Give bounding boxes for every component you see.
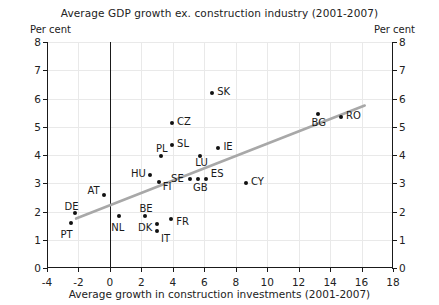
data-point-label-es: ES	[211, 169, 224, 179]
x-tick-mark	[173, 268, 174, 272]
y-tick-mark	[43, 240, 47, 241]
data-point-label-fi: FI	[163, 182, 172, 192]
y-tick-mark	[393, 212, 397, 213]
data-point-label-nl: NL	[111, 223, 124, 233]
data-point-fi	[157, 180, 161, 184]
data-point-hu	[148, 173, 152, 177]
x-tick-label: 12	[292, 276, 305, 288]
y-tick-mark	[43, 155, 47, 156]
x-tick-mark	[299, 268, 300, 272]
y-tick-label: 1	[29, 234, 41, 246]
data-point-label-ro: RO	[346, 111, 361, 121]
y-tick-mark	[393, 183, 397, 184]
y-tick-label: 0	[399, 262, 411, 274]
data-point-label-gb: GB	[193, 183, 208, 193]
y-tick-label: 8	[29, 36, 41, 48]
y-tick-label: 0	[29, 262, 41, 274]
y-tick-label: 4	[29, 149, 41, 161]
x-tick-mark	[330, 268, 331, 272]
chart-title: Average GDP growth ex. construction indu…	[0, 7, 439, 19]
x-tick-label: 10	[260, 276, 273, 288]
y-tick-label: 7	[399, 64, 411, 76]
data-point-label-de: DE	[65, 202, 79, 212]
y-tick-mark	[43, 183, 47, 184]
data-point-label-sl: SL	[177, 139, 189, 149]
data-point-label-sk: SK	[217, 87, 230, 97]
y-tick-mark	[393, 99, 397, 100]
data-point-label-it: IT	[161, 234, 170, 244]
y-axis-unit-right: Per cent	[374, 24, 415, 35]
y-tick-mark	[393, 155, 397, 156]
data-point-be	[143, 214, 147, 218]
y-tick-label: 4	[399, 149, 411, 161]
x-tick-label: -2	[73, 276, 83, 288]
x-tick-label: 16	[355, 276, 368, 288]
plot-area: 001122334455667788-4-2024681012141618 PT…	[47, 42, 393, 268]
data-point-label-lu: LU	[195, 158, 207, 168]
y-tick-mark	[43, 212, 47, 213]
trendline	[47, 42, 393, 268]
data-point-gb	[196, 177, 200, 181]
y-tick-label: 6	[399, 93, 411, 105]
y-tick-label: 8	[399, 36, 411, 48]
data-point-label-dk: DK	[138, 223, 152, 233]
y-tick-label: 6	[29, 93, 41, 105]
scatter-chart: Average GDP growth ex. construction indu…	[0, 0, 439, 305]
x-tick-label: 18	[386, 276, 399, 288]
data-point-label-pt: PT	[61, 230, 73, 240]
x-tick-label: 0	[107, 276, 114, 288]
data-point-label-se: SE	[171, 174, 184, 184]
y-tick-mark	[393, 240, 397, 241]
y-tick-label: 2	[29, 206, 41, 218]
y-tick-mark	[43, 42, 47, 43]
y-tick-mark	[393, 127, 397, 128]
y-tick-label: 7	[29, 64, 41, 76]
y-tick-label: 1	[399, 234, 411, 246]
y-tick-label: 3	[29, 177, 41, 189]
x-tick-mark	[204, 268, 205, 272]
x-tick-label: 14	[323, 276, 336, 288]
x-tick-mark	[110, 268, 111, 272]
y-tick-mark	[43, 70, 47, 71]
y-tick-mark	[43, 99, 47, 100]
data-point-label-ie: IE	[223, 142, 232, 152]
data-point-es	[204, 177, 208, 181]
data-point-label-pl: PL	[156, 144, 168, 154]
x-tick-label: 6	[201, 276, 208, 288]
y-tick-label: 2	[399, 206, 411, 218]
data-point-cz	[170, 121, 174, 125]
x-tick-label: 4	[169, 276, 176, 288]
x-tick-mark	[141, 268, 142, 272]
data-point-label-be: BE	[140, 204, 153, 214]
data-point-label-cz: CZ	[177, 117, 191, 127]
data-point-ro	[339, 115, 343, 119]
x-tick-mark	[267, 268, 268, 272]
data-point-sk	[210, 91, 214, 95]
x-tick-label: 8	[232, 276, 239, 288]
y-tick-mark	[393, 42, 397, 43]
data-point-label-fr: FR	[176, 217, 189, 227]
data-point-bg	[316, 112, 320, 116]
data-point-label-hu: HU	[131, 169, 146, 179]
data-point-label-bg: BG	[312, 118, 326, 128]
x-axis-title: Average growth in construction investmen…	[0, 288, 439, 300]
y-axis-unit-left: Per cent	[30, 24, 71, 35]
data-point-pt	[69, 221, 73, 225]
y-tick-label: 3	[399, 177, 411, 189]
x-tick-mark	[236, 268, 237, 272]
x-tick-label: 2	[138, 276, 145, 288]
y-tick-label: 5	[399, 121, 411, 133]
y-tick-mark	[393, 70, 397, 71]
x-tick-mark	[393, 268, 394, 272]
x-tick-mark	[47, 268, 48, 272]
x-tick-mark	[362, 268, 363, 272]
y-tick-label: 5	[29, 121, 41, 133]
x-axis-line	[47, 267, 393, 268]
y-tick-mark	[43, 127, 47, 128]
x-tick-mark	[78, 268, 79, 272]
data-point-label-at: AT	[87, 186, 99, 196]
x-tick-label: -4	[42, 276, 52, 288]
data-point-fr	[169, 217, 173, 221]
data-point-label-cy: CY	[251, 177, 264, 187]
y-axis-left-line	[47, 42, 48, 269]
